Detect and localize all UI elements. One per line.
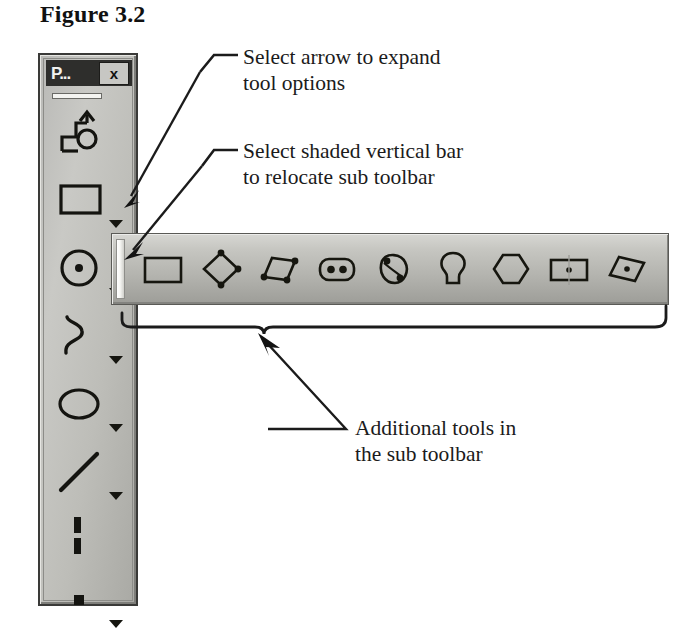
figure-container: Figure 3.2 P... x bbox=[0, 0, 692, 629]
expand-triangle-icon[interactable] bbox=[109, 424, 123, 432]
toolbar-grip[interactable] bbox=[52, 93, 102, 99]
diamond-nodes-icon bbox=[197, 247, 245, 291]
sub-tool-parallelogram-tool[interactable] bbox=[250, 241, 308, 297]
callout-line-1: Select shaded vertical bar bbox=[243, 138, 463, 164]
callout-line-1: Select arrow to expand bbox=[243, 44, 441, 70]
callout-line-2: tool options bbox=[243, 70, 441, 96]
point-square-icon bbox=[54, 575, 106, 625]
expand-triangle-icon[interactable] bbox=[109, 492, 123, 500]
toolbar-item-dimension-tool[interactable] bbox=[46, 507, 132, 567]
callout-additional-tools: Additional tools in the sub toolbar bbox=[355, 415, 516, 467]
toolbar-item-rectangle-tool[interactable] bbox=[46, 171, 132, 231]
spline-curve-icon bbox=[54, 311, 106, 361]
sub-tool-keyhole-slot-tool[interactable] bbox=[424, 241, 482, 297]
callout-line-2: to relocate sub toolbar bbox=[243, 164, 463, 190]
expand-triangle-icon[interactable] bbox=[109, 356, 123, 364]
rectangle-icon bbox=[54, 175, 106, 225]
callout-line-1: Additional tools in bbox=[355, 415, 516, 441]
sub-tool-polygon-tool[interactable] bbox=[482, 241, 540, 297]
sub-toolbar-items bbox=[134, 234, 662, 304]
hexagon-icon bbox=[487, 247, 535, 291]
line-icon bbox=[54, 447, 106, 497]
curved-slot-dots-icon bbox=[371, 247, 419, 291]
profile-arrow-icon bbox=[54, 107, 106, 157]
rectangle-icon bbox=[139, 247, 187, 291]
toolbar-item-point-tool[interactable] bbox=[46, 571, 132, 629]
toolbar-title-label: P... bbox=[49, 65, 70, 82]
parallelogram-nodes-icon bbox=[255, 247, 303, 291]
callout-expand-tool-options: Select arrow to expand tool options bbox=[243, 44, 441, 96]
sub-tool-rotated-rectangle-tool[interactable] bbox=[192, 241, 250, 297]
toolbar-item-line-tool[interactable] bbox=[46, 443, 132, 503]
toolbar-item-profile-tool[interactable] bbox=[46, 103, 132, 163]
sub-tool-center-parallelogram-tool[interactable] bbox=[598, 241, 656, 297]
callout-line-2: the sub toolbar bbox=[355, 441, 516, 467]
sub-tool-rectangle-shape-tool[interactable] bbox=[134, 241, 192, 297]
scan-artifact-upper bbox=[0, 508, 5, 530]
scan-artifact-lower bbox=[0, 552, 5, 574]
close-icon[interactable]: x bbox=[99, 62, 129, 85]
slanted-rect-center-dot-icon bbox=[603, 247, 651, 291]
sub-toolbar-grip[interactable] bbox=[116, 239, 125, 299]
leader-line-expand-long bbox=[131, 72, 200, 196]
expand-triangle-icon[interactable] bbox=[109, 220, 123, 228]
leader-line-expand bbox=[200, 55, 238, 72]
leader-line-additional-tools bbox=[266, 342, 346, 429]
expand-triangle-icon[interactable] bbox=[109, 620, 123, 628]
obround-two-dots-icon bbox=[313, 247, 361, 291]
dashed-line-icon bbox=[54, 511, 106, 561]
toolbar-titlebar[interactable]: P... x bbox=[46, 60, 132, 86]
arrowhead-additional-tools bbox=[258, 333, 280, 356]
brace-sub-toolbar bbox=[122, 306, 666, 334]
sub-tool-curved-slot-tool[interactable] bbox=[366, 241, 424, 297]
callout-relocate-sub-toolbar: Select shaded vertical bar to relocate s… bbox=[243, 138, 463, 190]
rect-center-dot-icon bbox=[545, 247, 593, 291]
sub-toolbar[interactable] bbox=[111, 233, 669, 305]
figure-title: Figure 3.2 bbox=[40, 1, 146, 28]
toolbar-item-ellipse-tool[interactable] bbox=[46, 375, 132, 435]
main-toolbar[interactable]: P... x bbox=[38, 53, 138, 606]
sub-tool-center-rectangle-tool[interactable] bbox=[540, 241, 598, 297]
circle-center-dot-icon bbox=[54, 243, 106, 293]
sub-tool-rounded-slot-two-points-tool[interactable] bbox=[308, 241, 366, 297]
ellipse-icon bbox=[54, 379, 106, 429]
toolbar-item-spline-tool[interactable] bbox=[46, 307, 132, 367]
keyhole-icon bbox=[429, 247, 477, 291]
leader-line-grip bbox=[202, 150, 238, 166]
